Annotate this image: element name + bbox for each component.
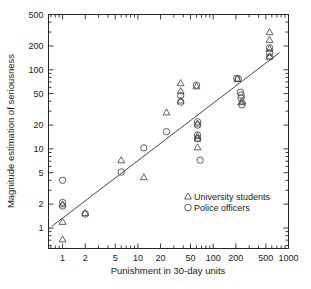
axis-ticks [49,15,289,249]
x-tick-label: 500 [258,253,273,263]
y-tick-label: 2 [38,199,43,209]
data-point-triangle [163,109,170,115]
x-tick-label: 1000 [278,253,298,263]
x-axis-title: Punishment in 30-day units [111,265,226,276]
legend-item-police-officers: Police officers [185,203,251,213]
data-point-triangle [140,174,147,180]
x-tick-label: 1 [60,253,65,263]
legend-label-university-students: University students [194,192,271,202]
x-tick-label: 20 [156,253,166,263]
y-tick-label: 1 [38,223,43,233]
y-tick-label: 100 [28,65,43,75]
chart-figure: 1251020501002005001000 12510205010020050… [0,0,311,289]
x-tick-label: 100 [206,253,221,263]
y-axis-title: Magnitude estimation of seriousness [5,54,16,208]
data-point-triangle [266,29,273,35]
circle-icon [185,204,192,211]
data-point-triangle [118,157,125,163]
y-tick-label: 500 [28,10,43,20]
data-point-triangle [59,236,66,242]
x-tick-label: 50 [186,253,196,263]
y-tick-label: 50 [33,89,43,99]
data-point-circle [197,157,203,163]
x-tick-labels: 1251020501002005001000 [60,253,298,263]
x-tick-label: 200 [228,253,243,263]
y-tick-label: 5 [38,168,43,178]
x-tick-label: 5 [113,253,118,263]
data-point-triangle [59,218,66,224]
x-tick-label: 2 [83,253,88,263]
y-tick-labels: 125102050100200500 [28,10,43,233]
y-tick-label: 20 [33,120,43,130]
scatter-plot-svg: 1251020501002005001000 12510205010020050… [0,0,311,289]
legend-label-police-officers: Police officers [194,203,250,213]
plot-frame [49,15,289,249]
legend-item-university-students: University students [185,192,271,202]
y-tick-label: 10 [33,144,43,154]
data-point-circle [59,177,65,183]
data-point-triangle [177,80,184,86]
data-point-circle [163,128,169,134]
x-tick-label: 10 [133,253,143,263]
legend: University students Police officers [185,192,271,214]
triangle-icon [185,193,192,199]
data-point-circle [177,99,183,105]
data-point-circle [141,145,147,151]
data-point-triangle [266,36,273,42]
y-tick-label: 200 [28,41,43,51]
data-point-triangle [194,144,201,150]
